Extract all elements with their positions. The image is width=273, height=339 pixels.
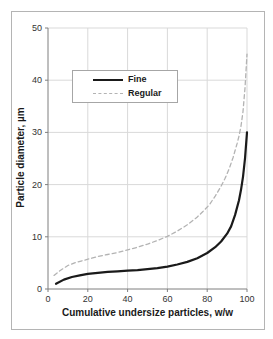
legend-label-regular: Regular bbox=[128, 89, 162, 98]
svg-text:40: 40 bbox=[123, 294, 133, 304]
svg-text:100: 100 bbox=[239, 294, 254, 304]
svg-text:80: 80 bbox=[202, 294, 212, 304]
svg-text:0: 0 bbox=[45, 294, 50, 304]
fine-line-swatch bbox=[93, 79, 123, 81]
regular-line-swatch bbox=[93, 93, 123, 94]
chart-plot-area: 01020304050020406080100 bbox=[0, 0, 273, 339]
svg-text:40: 40 bbox=[32, 75, 42, 85]
legend-item-fine: Fine bbox=[93, 74, 177, 85]
svg-text:20: 20 bbox=[83, 294, 93, 304]
svg-text:20: 20 bbox=[32, 180, 42, 190]
chart-legend: Fine Regular bbox=[72, 70, 178, 103]
legend-label-fine: Fine bbox=[128, 75, 147, 84]
x-axis-title: Cumulative undersize particles, w/w bbox=[48, 307, 247, 318]
y-axis-title: Particle diameter, µm bbox=[15, 88, 28, 228]
particle-size-distribution-figure: 01020304050020406080100 Fine Regular Cum… bbox=[0, 0, 273, 339]
legend-item-regular: Regular bbox=[93, 88, 177, 99]
svg-text:60: 60 bbox=[162, 294, 172, 304]
svg-text:0: 0 bbox=[37, 284, 42, 294]
svg-text:10: 10 bbox=[32, 232, 42, 242]
svg-text:30: 30 bbox=[32, 127, 42, 137]
svg-text:50: 50 bbox=[32, 23, 42, 33]
